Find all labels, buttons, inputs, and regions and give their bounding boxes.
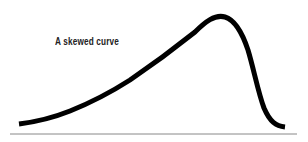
curve-label: A skewed curve	[55, 36, 119, 47]
skewed-curve-diagram: A skewed curve	[0, 0, 308, 142]
skewed-curve	[19, 16, 285, 127]
diagram-canvas	[0, 0, 308, 142]
